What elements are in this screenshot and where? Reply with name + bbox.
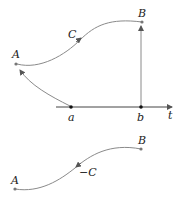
label-A-top: A (11, 48, 20, 61)
map-a-to-A-arrow (20, 70, 70, 106)
point-A-dot (14, 62, 17, 65)
label-b: b (137, 111, 144, 124)
label-a: a (68, 111, 75, 124)
label-B-top: B (137, 7, 146, 20)
label-C: C (68, 28, 77, 41)
point-B-dot-bottom (139, 147, 142, 150)
curve-c (17, 21, 142, 65)
top-diagram: A B C a b t (11, 7, 173, 124)
curve-minus-c (15, 147, 141, 189)
label-t: t (168, 109, 173, 122)
point-A-dot-bottom (13, 187, 16, 190)
diagram-canvas: A B C a b t A B −C (0, 0, 185, 203)
point-a-dot (69, 105, 73, 109)
label-A-bottom: A (10, 174, 19, 187)
label-B-bottom: B (137, 134, 146, 147)
bottom-diagram: A B −C (10, 134, 146, 191)
point-B-dot (140, 20, 143, 23)
point-b-dot (139, 105, 143, 109)
label-minus-C: −C (79, 166, 97, 179)
